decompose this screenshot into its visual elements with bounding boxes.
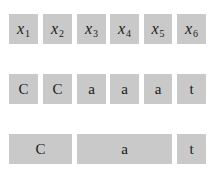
variable-symbol: x xyxy=(17,20,24,37)
variable-symbol: x xyxy=(51,20,58,37)
segment-cell-a: a xyxy=(77,134,172,164)
variable-subscript: 6 xyxy=(193,28,198,39)
variable-symbol: x xyxy=(151,20,158,37)
segment-row: C a t xyxy=(0,134,217,164)
variable-symbol: x xyxy=(118,20,125,37)
segment-cell-c: C xyxy=(9,134,72,164)
character-cell: a xyxy=(77,74,106,104)
character-cell: C xyxy=(43,74,72,104)
character-cell: t xyxy=(177,74,206,104)
variable-subscript: 5 xyxy=(160,28,165,39)
variable-subscript: 1 xyxy=(25,28,30,39)
variable-cell-x4: x4 xyxy=(110,14,139,44)
variable-row: x1 x2 x3 x4 x5 x6 xyxy=(0,14,217,44)
variable-cell-x1: x1 xyxy=(9,14,38,44)
segment-cell-t: t xyxy=(177,134,206,164)
variable-subscript: 4 xyxy=(126,28,131,39)
character-row: C C a a a t xyxy=(0,74,217,104)
character-cell: a xyxy=(110,74,139,104)
variable-cell-x5: x5 xyxy=(144,14,172,44)
variable-symbol: x xyxy=(185,20,192,37)
variable-cell-x6: x6 xyxy=(177,14,206,44)
variable-subscript: 2 xyxy=(59,28,64,39)
character-cell: C xyxy=(9,74,38,104)
variable-cell-x3: x3 xyxy=(77,14,106,44)
variable-subscript: 3 xyxy=(93,28,98,39)
character-cell: a xyxy=(144,74,172,104)
variable-symbol: x xyxy=(85,20,92,37)
variable-cell-x2: x2 xyxy=(43,14,72,44)
